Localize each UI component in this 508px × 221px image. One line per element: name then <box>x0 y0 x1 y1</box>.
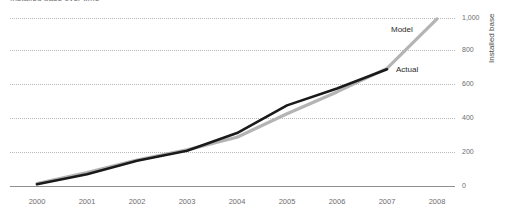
x-tick-label: 2008 <box>417 197 457 206</box>
series-label-actual: Actual <box>396 65 418 74</box>
y-tick-label: 400 <box>462 114 492 122</box>
x-tick-label: 2001 <box>67 197 107 206</box>
x-tick-label: 2006 <box>317 197 357 206</box>
series-lines <box>0 0 508 221</box>
y-axis-title: Installed base <box>487 14 496 63</box>
series-label-model: Model <box>391 25 413 34</box>
x-tick-label: 2003 <box>167 197 207 206</box>
series-line-model <box>37 19 437 184</box>
x-tick-label: 2002 <box>117 197 157 206</box>
y-tick-label: 600 <box>462 80 492 88</box>
x-tick-label: 2005 <box>267 197 307 206</box>
x-tick-label: 2007 <box>367 197 407 206</box>
chart-container: Installed base over time Model Actual 1,… <box>0 0 508 221</box>
y-tick-label: 0 <box>462 182 492 190</box>
series-line-actual <box>37 69 387 184</box>
x-tick-label: 2004 <box>217 197 257 206</box>
x-tick-label: 2000 <box>17 197 57 206</box>
y-tick-label: 200 <box>462 148 492 156</box>
